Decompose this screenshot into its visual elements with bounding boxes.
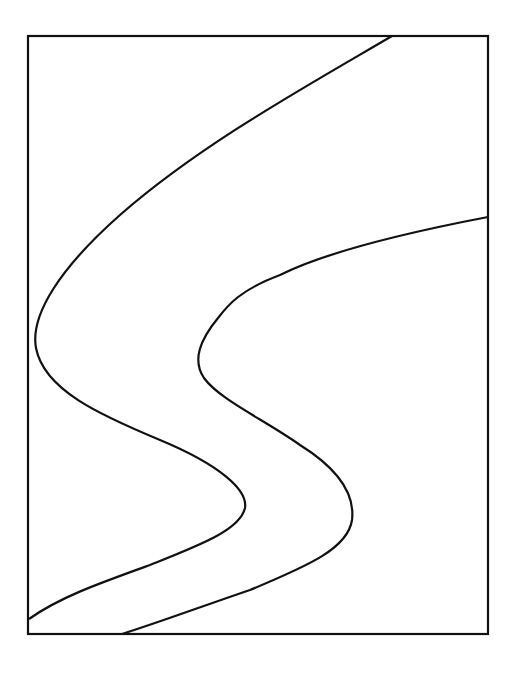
right-s-curve <box>122 217 488 634</box>
frame-border <box>28 36 488 634</box>
s-curve-diagram <box>0 0 518 678</box>
